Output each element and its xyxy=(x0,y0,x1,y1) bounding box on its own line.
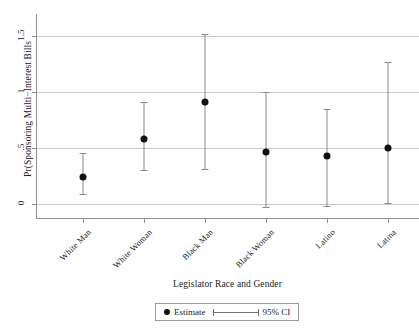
estimate-point xyxy=(79,173,86,180)
estimate-point xyxy=(385,144,392,151)
x-axis-line xyxy=(36,218,419,219)
ci-range-icon xyxy=(213,309,259,316)
legend-entry-estimate: Estimate xyxy=(164,307,206,317)
x-tick-label: White Woman xyxy=(111,227,154,270)
y-tick-label: 1 xyxy=(16,84,26,98)
x-tick-mark xyxy=(327,218,328,223)
estimate-point xyxy=(263,149,270,156)
ci-cap xyxy=(201,169,208,170)
chart-figure: Pr(Sponsoring Multi−Interest Bills 0.511… xyxy=(0,0,419,333)
x-tick-label: Black Woman xyxy=(234,227,277,270)
y-tick-mark xyxy=(32,36,37,37)
y-axis-line xyxy=(36,14,37,219)
gridline xyxy=(37,36,419,37)
ci-cap xyxy=(385,203,392,204)
y-tick-mark xyxy=(32,148,37,149)
ci-cap xyxy=(79,153,86,154)
y-axis-title: Pr(Sponsoring Multi−Interest Bills xyxy=(23,19,33,199)
x-tick-mark xyxy=(205,218,206,223)
estimate-point xyxy=(201,99,208,106)
gridline xyxy=(37,92,419,93)
x-tick-label: Black Man xyxy=(180,227,215,262)
x-tick-mark xyxy=(144,218,145,223)
ci-cap xyxy=(79,194,86,195)
ci-line xyxy=(388,62,389,202)
estimate-marker-icon xyxy=(164,309,170,315)
y-tick-label: .5 xyxy=(16,140,26,154)
ci-cap xyxy=(201,34,208,35)
ci-cap xyxy=(140,102,147,103)
estimate-point xyxy=(140,136,147,143)
y-tick-mark xyxy=(32,204,37,205)
gridline xyxy=(37,204,419,205)
x-tick-label: Latino xyxy=(314,227,338,251)
x-tick-label: White Man xyxy=(57,227,93,263)
chart-legend: Estimate 95% CI xyxy=(155,303,299,321)
x-tick-label: Latina xyxy=(375,227,398,250)
ci-cap xyxy=(263,92,270,93)
ci-cap xyxy=(385,62,392,63)
gridline xyxy=(37,148,419,149)
y-tick-label: 1.5 xyxy=(16,28,26,42)
x-tick-mark xyxy=(83,218,84,223)
plot-area: 0.511.5 White ManWhite WomanBlack ManBla… xyxy=(36,14,419,210)
ci-cap xyxy=(324,109,331,110)
ci-cap xyxy=(140,170,147,171)
x-tick-mark xyxy=(388,218,389,223)
x-axis-title: Legislator Race and Gender xyxy=(36,279,419,289)
estimate-point xyxy=(324,152,331,159)
ci-cap xyxy=(263,207,270,208)
ci-cap xyxy=(324,206,331,207)
x-tick-mark xyxy=(266,218,267,223)
y-tick-mark xyxy=(32,92,37,93)
legend-label-ci: 95% CI xyxy=(263,307,291,317)
legend-entry-ci: 95% CI xyxy=(213,307,291,317)
y-tick-label: 0 xyxy=(16,196,26,210)
legend-label-estimate: Estimate xyxy=(174,307,206,317)
